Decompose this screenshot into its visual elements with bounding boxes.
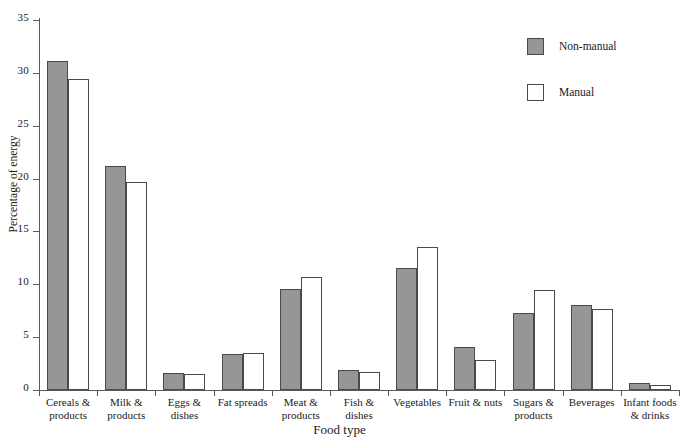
bar-non-manual	[454, 347, 475, 390]
y-tick-label: 5	[0, 329, 29, 340]
bar-non-manual	[105, 166, 126, 390]
bar-group	[47, 20, 89, 390]
x-category-label: Infant foods& drinks	[615, 396, 684, 421]
bar-manual	[417, 247, 438, 390]
x-category-label-line: products	[498, 409, 568, 422]
x-axis-title: Food type	[0, 422, 679, 437]
bar-manual	[184, 374, 205, 390]
bar-group	[105, 20, 147, 390]
y-tick-label: 30	[0, 65, 29, 76]
bar-non-manual	[222, 354, 243, 390]
bar-non-manual	[396, 268, 417, 390]
bar-manual	[301, 277, 322, 390]
bar-manual	[534, 290, 555, 390]
bar-manual	[359, 372, 380, 390]
bar-manual	[475, 360, 496, 390]
bar-manual	[68, 79, 89, 390]
legend-swatch-icon-non-manual	[527, 38, 544, 55]
y-axis-title: Percentage of energy	[7, 109, 19, 259]
y-tick-label: 0	[0, 382, 29, 393]
legend-swatch-icon-manual	[527, 84, 544, 101]
bar-group	[338, 20, 380, 390]
plot-area	[39, 20, 679, 390]
bar-non-manual	[629, 383, 650, 390]
bar-group	[396, 20, 438, 390]
bar-manual	[126, 182, 147, 390]
x-category-label-line: dishes	[324, 409, 394, 422]
y-tick-label: 25	[0, 118, 29, 129]
bar-non-manual	[338, 370, 359, 390]
bar-non-manual	[571, 305, 592, 390]
bar-non-manual	[47, 61, 68, 390]
bar-group	[222, 20, 264, 390]
bar-manual	[243, 353, 264, 390]
x-category-label-line: Infant foods	[615, 396, 684, 409]
y-tick-label: 15	[0, 223, 29, 234]
bar-group	[571, 20, 613, 390]
bar-group	[163, 20, 205, 390]
legend-label-manual: Manual	[559, 86, 594, 99]
bar-manual	[650, 385, 671, 390]
bar-manual	[592, 309, 613, 390]
y-tick-label: 35	[0, 12, 29, 23]
x-category-label-line: dishes	[149, 409, 219, 422]
legend-label-non-manual: Non-manual	[559, 40, 616, 53]
bar-group	[454, 20, 496, 390]
y-tick-label: 10	[0, 276, 29, 287]
bar-non-manual	[163, 373, 184, 390]
bar-group	[513, 20, 555, 390]
bar-group	[280, 20, 322, 390]
bar-group	[629, 20, 671, 390]
bar-non-manual	[513, 313, 534, 390]
y-tick-label: 20	[0, 171, 29, 182]
x-category-label-line: & drinks	[615, 409, 684, 422]
x-axis-line	[39, 390, 679, 391]
bar-non-manual	[280, 289, 301, 390]
